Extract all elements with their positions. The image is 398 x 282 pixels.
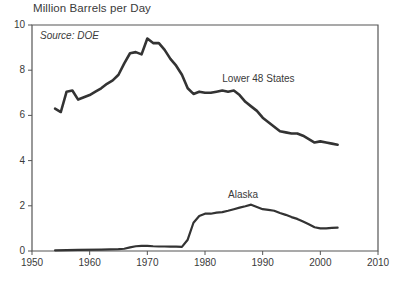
- y-axis-tick-label: 2: [0, 200, 25, 211]
- x-axis-tick-label: 1970: [127, 257, 167, 268]
- x-axis-tick-label: 2000: [300, 257, 340, 268]
- series-line-lower-48-states: [55, 39, 338, 145]
- x-axis-tick-label: 1990: [243, 257, 283, 268]
- series-line-alaska: [55, 205, 338, 251]
- y-axis-tick-label: 8: [0, 64, 25, 75]
- series-label-lower-48-states: Lower 48 States: [222, 73, 294, 84]
- oil-production-chart: Million Barrels per Day Source: DOE 0246…: [0, 0, 398, 282]
- x-axis-tick-label: 1980: [185, 257, 225, 268]
- x-axis-tick-label: 2010: [358, 257, 398, 268]
- plot-area: [0, 0, 398, 282]
- plot-frame: [32, 25, 378, 251]
- y-axis-tick-label: 6: [0, 109, 25, 120]
- x-axis-tick-label: 1950: [12, 257, 52, 268]
- y-axis-tick-label: 4: [0, 155, 25, 166]
- series-label-alaska: Alaska: [228, 189, 258, 200]
- y-axis-tick-label: 0: [0, 245, 25, 256]
- y-axis-tick-label: 10: [0, 19, 25, 30]
- x-axis-tick-label: 1960: [70, 257, 110, 268]
